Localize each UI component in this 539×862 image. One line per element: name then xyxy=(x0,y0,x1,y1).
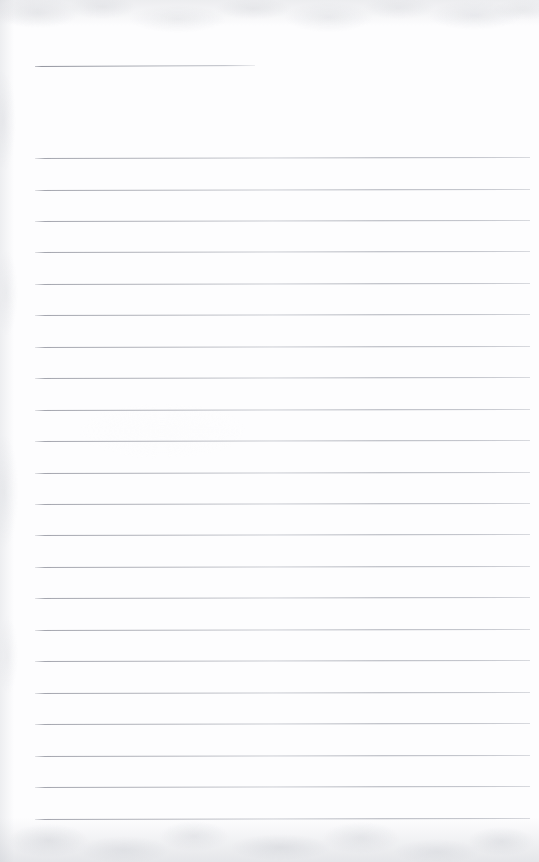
notepad-page xyxy=(0,0,539,862)
paper-background xyxy=(0,0,539,862)
